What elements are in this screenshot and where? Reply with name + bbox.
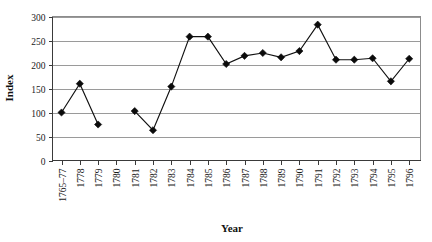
- x-tick-label: 1779: [94, 168, 104, 187]
- x-tick-label: 1781: [131, 168, 141, 187]
- x-tick-label: 1792: [332, 168, 342, 187]
- x-axis-title: Year: [221, 222, 243, 234]
- y-tick-label: 250: [31, 37, 46, 47]
- x-tick-label: 1785: [204, 168, 214, 187]
- y-tick-label: 150: [31, 85, 46, 95]
- index-by-year-line-chart: 1765–77177817791780178117821783178417851…: [0, 0, 432, 242]
- x-tick-label: 1783: [167, 168, 177, 187]
- y-tick-label: 200: [31, 61, 46, 71]
- x-tick-label: 1787: [241, 168, 251, 187]
- y-axis-title: Index: [3, 74, 15, 101]
- x-tick-label: 1765–77: [58, 168, 68, 202]
- y-tick-label: 100: [31, 109, 46, 119]
- y-tick-label: 50: [36, 133, 46, 143]
- x-tick-label: 1778: [76, 168, 86, 187]
- x-tick-label: 1795: [387, 168, 397, 187]
- x-tick-label: 1784: [186, 168, 196, 187]
- x-tick-label: 1796: [405, 168, 415, 187]
- x-tick-label: 1791: [314, 168, 324, 187]
- y-tick-label: 300: [31, 13, 46, 23]
- chart-background: [0, 0, 432, 242]
- x-tick-label: 1780: [112, 168, 122, 187]
- x-tick-label: 1794: [369, 168, 379, 187]
- x-tick-label: 1786: [222, 168, 232, 187]
- x-tick-label: 1793: [350, 168, 360, 187]
- x-tick-label: 1782: [149, 168, 159, 187]
- x-tick-label: 1789: [277, 168, 287, 187]
- y-tick-label: 0: [41, 157, 46, 167]
- x-tick-label: 1790: [295, 168, 305, 187]
- x-tick-label: 1788: [259, 168, 269, 187]
- chart-container: 1765–77177817791780178117821783178417851…: [0, 0, 432, 242]
